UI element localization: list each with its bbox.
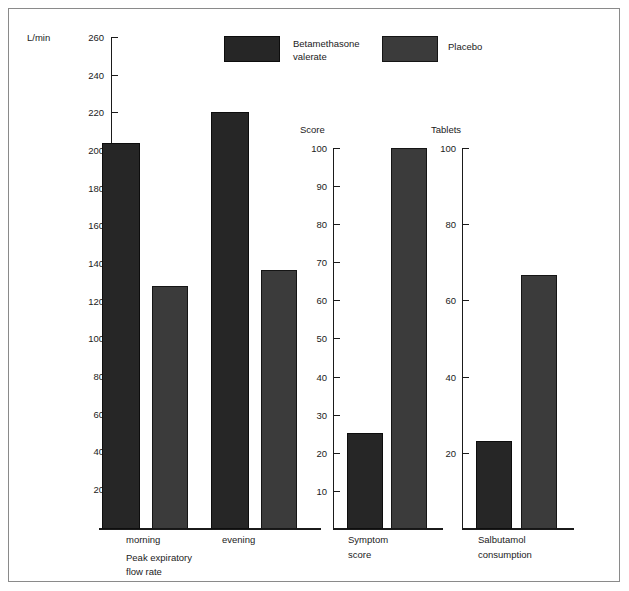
legend-label-placebo: Placebo (448, 40, 482, 53)
tick-220 (111, 112, 118, 113)
panel-caption-peak-flow-line2: flow rate (126, 565, 162, 579)
bar-symptom-betamethasone (347, 433, 383, 529)
tick-tablets-80 (462, 224, 469, 225)
tick-label-tablets-40: 40 (422, 372, 456, 383)
tick-score-50 (333, 338, 340, 339)
legend-label-betamethasone-line2: valerate (293, 50, 327, 63)
tick-label-score-20: 20 (293, 448, 327, 459)
tick-260 (111, 37, 118, 38)
tick-label-tablets-60: 60 (422, 295, 456, 306)
tick-tablets-40 (462, 377, 469, 378)
tick-label-20: 20 (58, 484, 104, 495)
tick-label-score-60: 60 (293, 295, 327, 306)
bar-morning-betamethasone (102, 143, 140, 529)
legend-swatch-betamethasone (224, 36, 280, 62)
bar-evening-betamethasone (211, 112, 249, 529)
tick-label-tablets-20: 20 (422, 448, 456, 459)
category-label-morning: morning (126, 533, 160, 547)
tick-label-score-80: 80 (293, 219, 327, 230)
chart-figure: Betamethasone valerate Placebo L/min 260… (0, 0, 629, 591)
panel-caption-symptom-line1: Symptom (348, 533, 388, 547)
tick-label-260: 260 (58, 32, 104, 43)
axis-unit-lmin: L/min (27, 32, 50, 43)
tick-label-tablets-100: 100 (422, 143, 456, 154)
legend-swatch-placebo (382, 36, 438, 62)
tick-label-score-40: 40 (293, 372, 327, 383)
panel-caption-salbutamol-line2: consumption (478, 548, 532, 562)
legend-label-betamethasone-line1: Betamethasone (293, 37, 360, 50)
tick-label-score-30: 30 (293, 410, 327, 421)
tick-score-70 (333, 262, 340, 263)
tick-score-100 (333, 148, 340, 149)
tick-label-score-90: 90 (293, 181, 327, 192)
tick-label-score-100: 100 (293, 143, 327, 154)
tick-label-100: 100 (58, 333, 104, 344)
tick-label-40: 40 (58, 446, 104, 457)
tick-label-score-70: 70 (293, 257, 327, 268)
tick-label-240: 240 (58, 70, 104, 81)
bar-salbutamol-betamethasone (476, 441, 512, 529)
tick-score-30 (333, 415, 340, 416)
panel-caption-symptom-line2: score (348, 548, 371, 562)
panel-caption-salbutamol-line1: Salbutamol (478, 533, 526, 547)
tick-label-120: 120 (58, 296, 104, 307)
tick-score-20 (333, 453, 340, 454)
y-axis-salbutamol (462, 148, 463, 529)
tick-tablets-100 (462, 148, 469, 149)
tick-label-tablets-80: 80 (422, 219, 456, 230)
tick-label-180: 180 (58, 183, 104, 194)
panel-caption-peak-flow-line1: Peak expiratory (126, 551, 192, 565)
bar-symptom-placebo (391, 148, 427, 529)
tick-score-10 (333, 491, 340, 492)
tick-label-80: 80 (58, 371, 104, 382)
tick-score-80 (333, 224, 340, 225)
tick-tablets-20 (462, 453, 469, 454)
tick-label-200: 200 (58, 145, 104, 156)
tick-label-160: 160 (58, 220, 104, 231)
tick-label-score-10: 10 (293, 486, 327, 497)
tick-score-90 (333, 186, 340, 187)
tick-240 (111, 75, 118, 76)
tick-score-60 (333, 300, 340, 301)
tick-label-score-50: 50 (293, 333, 327, 344)
tick-tablets-60 (462, 300, 469, 301)
tick-score-40 (333, 377, 340, 378)
bar-morning-placebo (152, 286, 188, 529)
bar-salbutamol-placebo (521, 275, 557, 529)
tick-label-60: 60 (58, 409, 104, 420)
bar-evening-placebo (261, 270, 297, 529)
tick-label-220: 220 (58, 107, 104, 118)
tick-label-140: 140 (58, 258, 104, 269)
axis-unit-score: Score (300, 124, 325, 135)
axis-unit-tablets: Tablets (431, 124, 461, 135)
category-label-evening: evening (222, 533, 255, 547)
